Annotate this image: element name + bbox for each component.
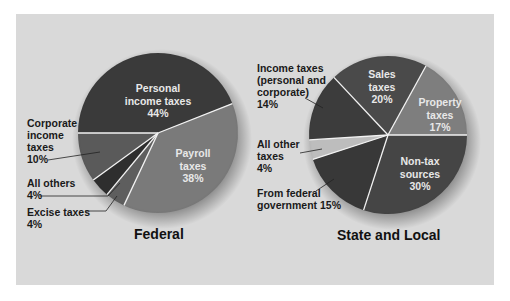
label-all-others: All others 4%	[27, 177, 75, 201]
label-property: Property taxes 17%	[410, 96, 470, 134]
label-excise: Excise taxes 4%	[27, 206, 90, 230]
label-corporate-income: Corporate income taxes 10%	[27, 117, 77, 165]
label-nontax: Non-tax sources 30%	[390, 155, 450, 193]
label-personal-income: Personal income taxes 44%	[118, 82, 198, 120]
label-all-other-taxes: All other taxes 4%	[257, 138, 300, 174]
federal-title: Federal	[134, 226, 184, 242]
label-sales: Sales taxes 20%	[362, 68, 402, 106]
state-local-title: State and Local	[337, 227, 440, 243]
label-state-income: Income taxes (personal and corporate) 14…	[257, 62, 326, 110]
federal-pie	[72, 49, 252, 229]
label-federal-government: From federal government 15%	[257, 187, 341, 211]
label-payroll: Payroll taxes 38%	[163, 147, 223, 185]
